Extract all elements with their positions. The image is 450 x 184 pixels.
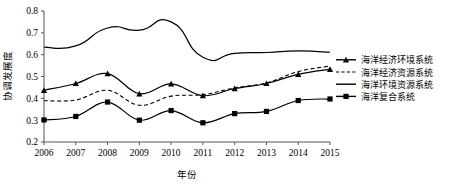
data-point-marker (200, 120, 205, 125)
y-tick-label: 0.4 (26, 94, 38, 104)
data-point-marker (343, 94, 348, 99)
y-tick-label: 0.5 (26, 72, 38, 82)
legend-item[interactable]: 海洋环境资源系统 (334, 79, 446, 91)
x-tick-label: 2012 (225, 148, 244, 158)
data-point-marker (137, 118, 142, 123)
x-tick-label: 2007 (66, 148, 85, 158)
y-tick-label: 0.3 (26, 116, 38, 126)
x-tick-label: 2014 (289, 148, 308, 158)
x-tick-label: 2011 (194, 148, 213, 158)
x-tick-label: 2009 (130, 148, 149, 158)
legend-label: 海洋环境资源系统 (361, 79, 433, 90)
legend-item[interactable]: 海洋复合系统 (334, 91, 446, 103)
x-axis-label: 年份 (177, 169, 197, 180)
legend-item[interactable]: 海洋经济资源系统 (334, 67, 446, 79)
legend-label: 海洋复合系统 (361, 91, 415, 102)
legend-label: 海洋经济资源系统 (361, 67, 433, 78)
data-point-marker (296, 98, 301, 103)
y-axis-label: 协调发展度 (2, 51, 13, 101)
y-tick-label: 0.2 (26, 137, 38, 147)
y-tick-label: 0.7 (26, 28, 38, 38)
data-point-marker (264, 109, 269, 114)
legend-label: 海洋经济环境系统 (361, 54, 433, 65)
legend-item[interactable]: 海洋经济环境系统 (334, 54, 446, 66)
y-tick-label: 0.8 (26, 6, 38, 16)
x-tick-label: 2010 (162, 148, 181, 158)
y-tick-label: 0.6 (26, 50, 38, 60)
x-tick-label: 2013 (257, 148, 276, 158)
data-point-marker (327, 96, 332, 101)
x-tick-label: 2006 (35, 148, 54, 158)
data-point-marker (73, 114, 78, 119)
x-tick-label: 2015 (321, 148, 340, 158)
coordination-development-line-chart: 0.80.70.60.50.40.30.2 200620072008200920… (0, 0, 450, 184)
data-point-marker (41, 117, 46, 122)
data-point-marker (169, 108, 174, 113)
data-point-marker (105, 99, 110, 104)
data-point-marker (232, 111, 237, 116)
x-tick-label: 2008 (98, 148, 117, 158)
